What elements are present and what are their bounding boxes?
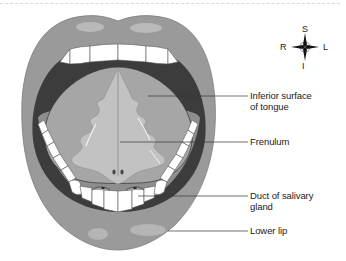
compass-right: R bbox=[280, 42, 287, 52]
caruncle bbox=[120, 170, 123, 175]
duct-opening bbox=[101, 187, 105, 189]
label-lower-lip: Lower lip bbox=[250, 225, 287, 236]
lip-highlight bbox=[130, 23, 162, 33]
compass-superior: S bbox=[302, 24, 308, 34]
label-inferior-surface: Inferior surface of tongue bbox=[250, 90, 312, 112]
lip-highlight bbox=[88, 228, 108, 240]
duct-opening bbox=[133, 187, 137, 189]
label-frenulum: Frenulum bbox=[250, 136, 289, 147]
label-duct: Duct of salivary gland bbox=[250, 190, 313, 212]
compass-inferior: I bbox=[302, 61, 305, 71]
lip-highlight bbox=[130, 224, 166, 236]
compass-rose-icon bbox=[291, 33, 319, 61]
compass-left: L bbox=[323, 42, 328, 52]
caruncle bbox=[112, 170, 115, 175]
mouth-diagram bbox=[0, 0, 346, 261]
lip-highlight bbox=[76, 22, 104, 32]
